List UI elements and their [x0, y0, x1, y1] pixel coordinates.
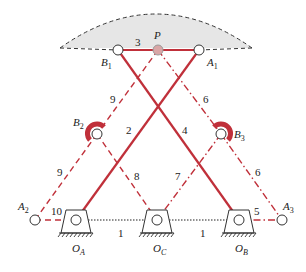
- label-P: P: [153, 29, 161, 41]
- label-link-2: 2: [126, 124, 132, 136]
- pin-B2: [92, 129, 102, 139]
- pin-OA: [71, 215, 81, 225]
- label-link-10: 10: [51, 205, 63, 217]
- label-A3: A3: [282, 200, 294, 215]
- label-link-9-upper: 9: [110, 93, 116, 105]
- linkage-diagram: B1 A1 P B2 B3 A2 A3 OA OC OB 3 9 6 2 4 9…: [0, 0, 306, 272]
- label-link-4: 4: [182, 124, 188, 136]
- pin-A3: [277, 215, 287, 225]
- label-link-7: 7: [175, 170, 181, 182]
- link-7: [157, 134, 221, 220]
- label-B3: B3: [234, 128, 245, 143]
- pin-A1: [194, 45, 204, 55]
- label-link-9-lower: 9: [57, 166, 63, 178]
- label-link-8: 8: [134, 170, 140, 182]
- label-link-5: 5: [254, 205, 260, 217]
- label-B1: B1: [101, 56, 112, 71]
- label-link-6-upper: 6: [203, 93, 209, 105]
- coupler-baseline-left: [60, 48, 118, 50]
- pin-B1: [113, 45, 123, 55]
- pin-OC: [152, 215, 162, 225]
- label-OA: OA: [72, 242, 85, 257]
- pin-B3: [216, 129, 226, 139]
- pin-P: [153, 45, 163, 55]
- pin-OB: [234, 215, 244, 225]
- label-link-1-left: 1: [118, 227, 124, 239]
- label-A1: A1: [206, 56, 218, 71]
- label-link-1-right: 1: [200, 227, 206, 239]
- coupler-baseline-right: [199, 48, 252, 50]
- label-B2: B2: [73, 116, 84, 131]
- label-OC: OC: [153, 242, 167, 257]
- label-A2: A2: [17, 200, 29, 215]
- label-link-6-lower: 6: [255, 166, 261, 178]
- label-OB: OB: [235, 242, 248, 257]
- label-link-3: 3: [135, 36, 141, 48]
- pin-A2: [30, 215, 40, 225]
- link-9-lower: [35, 134, 97, 220]
